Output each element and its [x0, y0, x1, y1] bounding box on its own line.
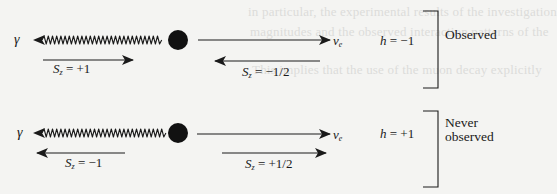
- spin-value: = +1/2: [258, 156, 293, 171]
- photon-label: γ: [17, 126, 23, 140]
- status-observed: Observed: [445, 28, 497, 42]
- spin-symbol: S: [65, 155, 72, 170]
- neutrino-label: νe: [333, 34, 342, 47]
- status-line: observed: [445, 130, 494, 144]
- particle-dot-icon: [168, 123, 188, 143]
- helicity-label: h = +1: [380, 127, 414, 140]
- status-line: Observed: [445, 28, 497, 42]
- row-never-observed: [33, 111, 438, 187]
- neutrino-label: νe: [333, 128, 342, 141]
- photon-wave-icon: [42, 129, 166, 137]
- photon-arrowhead-icon: [33, 35, 45, 45]
- helicity-symbol: h: [380, 33, 387, 48]
- helicity-value: = +1: [390, 126, 414, 141]
- neutrino-symbol: ν: [333, 33, 339, 48]
- photon-spin-label: Sz = +1: [53, 62, 90, 75]
- neutrino-subscript: e: [339, 134, 343, 143]
- neutrino-subscript: e: [339, 40, 343, 49]
- bracket-observed: [423, 11, 438, 88]
- spin-symbol: S: [53, 61, 60, 76]
- helicity-label: h = −1: [380, 34, 414, 47]
- bracket-never-observed: [423, 111, 438, 187]
- particle-dot-icon: [168, 30, 188, 50]
- spin-value: = +1: [66, 61, 90, 76]
- spin-subscript: z: [72, 162, 75, 171]
- photon-label: γ: [14, 33, 20, 47]
- helicity-symbol: h: [380, 126, 387, 141]
- spin-subscript: z: [249, 71, 252, 80]
- spin-symbol: S: [245, 156, 252, 171]
- photon-arrowhead-icon: [33, 128, 45, 138]
- neutrino-spin-label: Sz = +1/2: [245, 157, 292, 170]
- spin-subscript: z: [252, 163, 255, 172]
- photon-wave-icon: [42, 36, 162, 44]
- row-observed: [33, 11, 438, 88]
- spin-value: = −1: [78, 155, 102, 170]
- photon-spin-label: Sz = −1: [65, 156, 102, 169]
- spin-value: = −1/2: [255, 64, 290, 79]
- status-line: Never: [445, 116, 494, 130]
- neutrino-symbol: ν: [333, 127, 339, 142]
- spin-subscript: z: [60, 68, 63, 77]
- status-never-observed: Never observed: [445, 116, 494, 144]
- helicity-value: = −1: [390, 33, 414, 48]
- spin-symbol: S: [242, 64, 249, 79]
- neutrino-spin-label: Sz = −1/2: [242, 65, 289, 78]
